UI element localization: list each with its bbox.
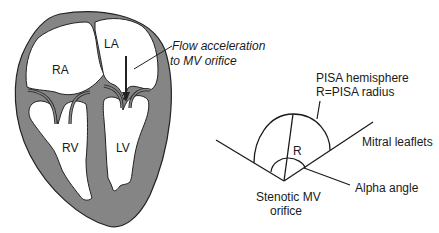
alpha-label: Alpha angle	[355, 181, 419, 195]
label-lv: LV	[116, 141, 130, 155]
pisa-schematic: PISA hemisphere R=PISA radius R Mitral l…	[216, 71, 433, 218]
left-leaflet-line	[216, 140, 284, 181]
flow-label-line2: to MV orifice	[170, 54, 237, 68]
hemisphere-label-line1: PISA hemisphere	[316, 71, 409, 85]
flow-label-line1: Flow acceleration	[172, 39, 266, 53]
heart-illustration: RA LA RV LV Flow acceleration to MV orif…	[15, 12, 265, 227]
radius-label: R	[293, 144, 302, 158]
hemisphere-pointer	[317, 101, 320, 119]
label-ra: RA	[52, 63, 69, 77]
leaflets-label: Mitral leaflets	[362, 135, 433, 149]
hemisphere-label-line2: R=PISA radius	[316, 85, 394, 99]
orifice-label-line1: Stenotic MV	[256, 190, 321, 204]
pisa-diagram: RA LA RV LV Flow acceleration to MV orif…	[0, 0, 439, 233]
alpha-pointer	[304, 168, 350, 185]
label-la: LA	[104, 37, 119, 51]
orifice-label-line2: orifice	[270, 204, 302, 218]
pisa-radius-line	[284, 114, 293, 181]
label-rv: RV	[62, 141, 78, 155]
